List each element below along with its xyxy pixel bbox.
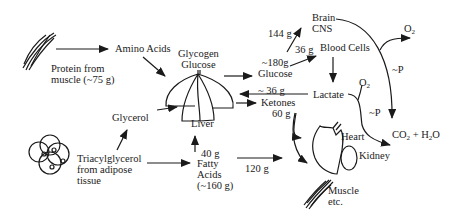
adipose-cells-icon — [29, 135, 69, 174]
glucose-output-label: ~180g Glucose — [258, 57, 292, 79]
ketones-label: Ketones 60 g — [261, 97, 295, 119]
h2o-o: O — [432, 129, 440, 140]
glucose-amount: ~180g — [258, 57, 292, 68]
fa-line3: (~160 g) — [197, 180, 233, 191]
heart-label: Heart — [341, 131, 364, 142]
tag-line2: from adipose — [77, 164, 141, 175]
brain-line2: CNS — [312, 23, 335, 34]
glucose-store-line: Glucose — [178, 59, 219, 70]
protein-line2: muscle (~75 g) — [51, 74, 114, 85]
tag-line1: Triacylglycerol — [77, 153, 141, 164]
blood-glucose-amount: 36 g — [295, 44, 313, 55]
co2-h2o-label: CO2 + H2O — [392, 129, 440, 144]
heart-icon — [313, 122, 343, 174]
brain-glucose-amount: 144 g — [268, 28, 292, 39]
kidney-label: Kidney — [359, 150, 390, 161]
ketones-amount: 60 g — [261, 108, 295, 119]
kidney-icon — [341, 146, 357, 170]
atp-top-label: ~P — [392, 64, 404, 75]
fatty-acids-label: Fatty Acids (~160 g) — [197, 158, 233, 191]
glucose-text: Glucose — [258, 68, 292, 79]
triacylglycerol-label: Triacylglycerol from adipose tissue — [77, 153, 141, 186]
fa-to-muscle-amount: 120 g — [245, 163, 269, 174]
o2-mid-label: O2 — [359, 77, 370, 92]
o2-top-label: O2 — [404, 23, 415, 38]
liver-label: Liver — [191, 118, 214, 129]
blood-cells-label: Blood Cells — [320, 42, 370, 53]
atp-mid-label: ~P — [369, 107, 381, 118]
tag-line3: tissue — [77, 175, 141, 186]
lactate-label: Lactate — [313, 89, 344, 100]
muscle-line2: etc. — [328, 196, 359, 207]
protein-line1: Protein from — [51, 63, 114, 74]
o2-top-o: O — [404, 23, 412, 34]
muscle-line1: Muscle — [328, 185, 359, 196]
o2-top-sub: 2 — [412, 28, 416, 36]
o2-mid-sub: 2 — [367, 82, 371, 90]
co2-plus-h: + H — [410, 129, 429, 140]
fa-line2: Acids — [197, 169, 233, 180]
o2-mid-o: O — [359, 77, 367, 88]
amino-acids-label: Amino Acids — [115, 43, 171, 54]
liver-icon — [166, 70, 233, 121]
metabolism-diagram: Protein from muscle (~75 g) Amino Acids … — [0, 0, 462, 222]
protein-label: Protein from muscle (~75 g) — [51, 63, 114, 85]
glycogen-glucose-label: Glycogen Glucose — [178, 48, 219, 70]
glycogen-line: Glycogen — [178, 48, 219, 59]
muscle-label: Muscle etc. — [328, 185, 359, 207]
ketones-text: Ketones — [261, 97, 295, 108]
brain-line1: Brain — [312, 12, 335, 23]
glycerol-label: Glycerol — [112, 112, 149, 123]
brain-label: Brain CNS — [312, 12, 335, 34]
co2-a: CO — [392, 129, 407, 140]
fa-line1: Fatty — [197, 158, 233, 169]
lactate-return-amount: ~ 36 g — [258, 85, 285, 96]
